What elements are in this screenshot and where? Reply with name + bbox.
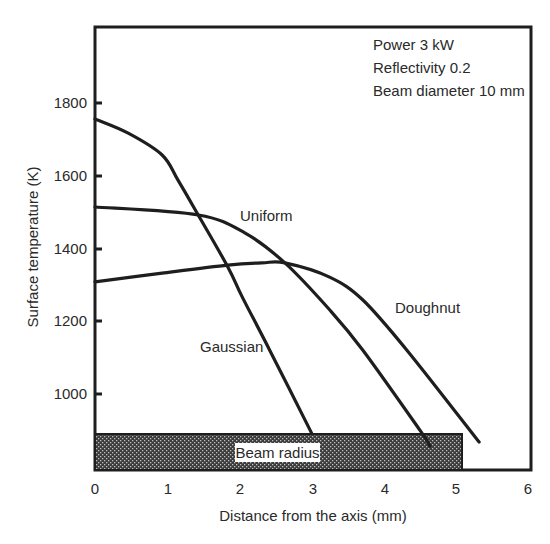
x-tick-label: 4	[381, 480, 389, 497]
beam-radius-label: Beam radius	[235, 444, 319, 461]
parameters-annotation: Power 3 kW Reflectivity 0.2 Beam diamete…	[373, 36, 525, 99]
x-tick-label: 3	[309, 480, 317, 497]
x-tick-label: 5	[452, 480, 460, 497]
annotation-beam-diameter: Beam diameter 10 mm	[373, 82, 525, 99]
annotation-power: Power 3 kW	[373, 36, 455, 53]
label-uniform: Uniform	[240, 207, 293, 224]
curve-doughnut	[95, 262, 479, 442]
temperature-chart: Beam radius 1800 1600 1400 1200 1000 Sur…	[0, 0, 550, 544]
beam-radius-band: Beam radius	[95, 434, 462, 470]
x-axis-title: Distance from the axis (mm)	[219, 507, 407, 524]
curves	[95, 119, 479, 446]
x-tick-label: 2	[236, 480, 244, 497]
y-axis: 1800 1600 1400 1200 1000 Surface tempera…	[24, 94, 102, 402]
y-tick-label: 1400	[54, 240, 87, 257]
y-tick-label: 1600	[54, 167, 87, 184]
y-tick-label: 1200	[54, 312, 87, 329]
label-doughnut: Doughnut	[395, 299, 461, 316]
curve-uniform	[95, 207, 430, 446]
y-tick-label: 1000	[54, 385, 87, 402]
label-gaussian: Gaussian	[200, 338, 263, 355]
x-tick-label: 6	[524, 480, 532, 497]
annotation-reflectivity: Reflectivity 0.2	[373, 59, 471, 76]
x-tick-label: 1	[164, 480, 172, 497]
y-tick-label: 1800	[54, 94, 87, 111]
y-axis-title: Surface temperature (K)	[24, 167, 41, 328]
x-axis: 0 1 2 3 4 5 6 Distance from the axis (mm…	[91, 480, 532, 524]
x-tick-label: 0	[91, 480, 99, 497]
